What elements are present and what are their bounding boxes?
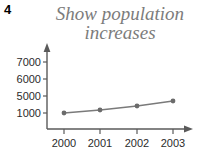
series-line-population — [64, 101, 173, 113]
series-markers — [62, 99, 176, 116]
y-axis-tick-label: 5000 — [17, 90, 41, 102]
data-point-marker — [171, 99, 176, 104]
x-axis-tick-label: 2002 — [125, 137, 149, 149]
data-point-marker — [98, 108, 103, 113]
x-axis-ticks — [64, 129, 173, 134]
data-point-marker — [62, 111, 67, 116]
x-axis-tick-labels: 2000 2001 2002 2003 — [52, 137, 185, 149]
y-axis-arrow-icon — [44, 43, 51, 52]
y-axis-tick-label: 1000 — [17, 107, 41, 119]
x-axis-tick-label: 2001 — [88, 137, 112, 149]
y-axis-tick-label: 6000 — [17, 73, 41, 85]
line-chart-plot: 7000 6000 5000 1000 2000 2001 2002 2003 — [0, 0, 200, 152]
x-axis-tick-label: 2000 — [52, 137, 76, 149]
data-point-marker — [135, 104, 140, 109]
y-axis-tick-labels: 7000 6000 5000 1000 — [17, 56, 41, 119]
y-axis-tick-label: 7000 — [17, 56, 41, 68]
chart-figure: 4 Show population increases 7000 6000 50… — [0, 0, 200, 152]
x-axis-tick-label: 2003 — [161, 137, 185, 149]
x-axis-arrow-icon — [184, 126, 193, 133]
